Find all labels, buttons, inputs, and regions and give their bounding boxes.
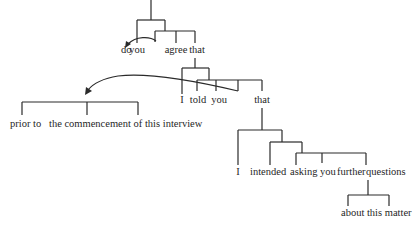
word-you: you — [211, 94, 228, 105]
word-that: that — [189, 44, 205, 55]
word-questions: questions — [366, 166, 406, 177]
word-i: I — [180, 94, 184, 105]
phrase-prior-to: prior to the commencement of this interv… — [10, 102, 203, 129]
word-i: I — [236, 166, 240, 177]
clause-do-you-agree: do you agree that — [121, 0, 205, 55]
word-agree: agree — [165, 44, 188, 55]
word-you: you — [320, 166, 337, 177]
phrase-about-this-matter: about this matter — [341, 180, 412, 218]
clause-i-told-you: I told you that — [85, 58, 270, 105]
word-about-this-matter: about this matter — [341, 207, 412, 218]
word-further: further — [337, 166, 366, 177]
word-that: that — [254, 94, 270, 105]
word-asking: asking — [290, 166, 318, 177]
word-commencement: the commencement of this interview — [49, 118, 203, 129]
word-told: told — [190, 94, 207, 105]
word-prior-to: prior to — [10, 118, 41, 129]
clause-i-intended: I intended asking you further questions — [236, 108, 405, 177]
word-intended: intended — [250, 166, 287, 177]
arrowhead-icon — [85, 87, 92, 95]
syntax-tree-diagram: do you agree that I told you that prior … — [0, 0, 412, 229]
word-you: you — [129, 44, 146, 55]
